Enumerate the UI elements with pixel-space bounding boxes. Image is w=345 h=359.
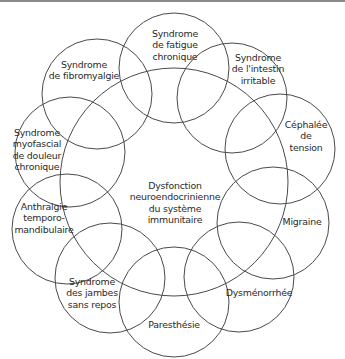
central-label: Dysfonction neuroendocrinienne du systèm… <box>130 180 220 225</box>
label-dysmenorrhee: Dysménorrhée <box>226 287 293 298</box>
label-jambes: Syndrome des jambes sans repos <box>66 276 118 310</box>
label-cephalee: Céphalée de tension <box>285 119 328 153</box>
label-migraine: Migraine <box>283 216 322 227</box>
label-intestin: Syndrome de l'intestin irritable <box>232 52 284 86</box>
label-myofascial: Syndrome myofascial de douleur chronique <box>13 127 62 172</box>
circle-paresthesie <box>119 247 229 357</box>
label-fatigue: Syndrome de fatigue chronique <box>152 28 198 62</box>
label-paresthesie: Paresthésie <box>148 319 200 330</box>
label-fibromyalgie: Syndrome de fibromyalgie <box>49 59 119 82</box>
label-anthralgie: Anthralgie temporo- mandibulaire <box>14 201 73 235</box>
circle-dysmenorrhee <box>184 222 294 332</box>
